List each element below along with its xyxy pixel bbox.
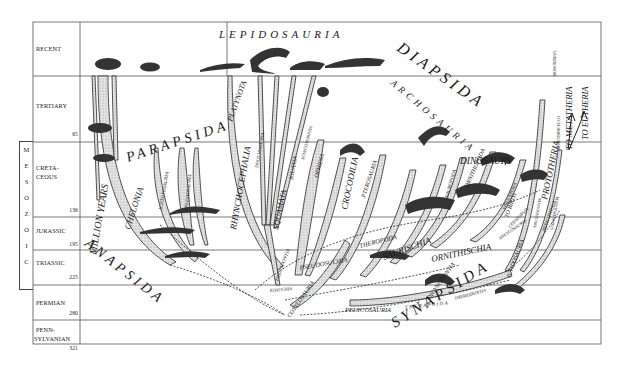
label-million-years: MILLION YEARS (87, 183, 110, 256)
sea-turtle-icon (88, 123, 112, 133)
mammal-arrows (505, 111, 587, 165)
label-to-eutheria: TO EUTHERIA (580, 86, 590, 140)
chameleon-icon (290, 61, 325, 70)
label-pelycosauria: PELYCOSAURIA (344, 306, 391, 313)
label-eosuchia: EOSUCHIA (269, 286, 293, 293)
lineage-labels: CHELONIA ICHTHYOSAURIA PLESIOSAURIA RHYN… (122, 50, 590, 319)
turtle-icon (140, 63, 160, 72)
plesiosaur-icon (170, 207, 220, 215)
snake-coil-icon (317, 87, 329, 97)
label-iguania: IGUANIA (288, 155, 298, 181)
phylogeny-tree: LEPIDOSAURIA DIAPSIDA ARCHOSAURIA DINOSA… (0, 0, 618, 368)
crocodile-icon (325, 58, 385, 68)
iguana-icon (250, 48, 290, 74)
label-multituberculata: MULTITUBERCULATA (557, 115, 561, 151)
lizard-icon (200, 63, 245, 72)
pterosaur-icon (340, 143, 365, 156)
nothosaur-icon (165, 251, 210, 258)
label-theropoda: THEROPODA (359, 233, 398, 249)
label-dinosaurs: DINOSAURS (459, 156, 511, 166)
phylogeny-diagram: RECENT TERTIARY 65 CRETA- CEOUS 136 JURA… (0, 0, 618, 368)
label-lepidosauria: LEPIDOSAURIA (218, 28, 343, 40)
label-monotremata: MONOTREMATA (553, 50, 557, 77)
label-parapsida: PARAPSIDA (123, 117, 231, 165)
tortoise-icon (95, 58, 121, 70)
ancestry-dashed-lines (160, 190, 560, 315)
label-to-metatheria: TO METATHERIA (564, 86, 574, 150)
turtle-fossil-icon (93, 154, 115, 162)
